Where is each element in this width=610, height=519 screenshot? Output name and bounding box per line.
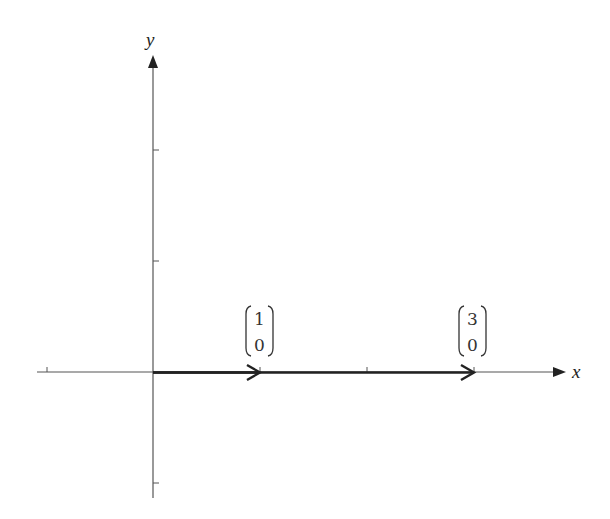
- vector-1-0-label: 1 0: [246, 306, 273, 356]
- vector-1-0-x-component: 1: [254, 309, 265, 329]
- vector-3-0-x-component: 3: [467, 309, 478, 329]
- y-ticks: [153, 150, 159, 483]
- vector-3-0-y-component: 0: [467, 335, 478, 355]
- y-axis-arrowhead-icon: [148, 55, 158, 68]
- x-axis-arrowhead-icon: [553, 367, 566, 377]
- y-axis-label: y: [144, 29, 155, 50]
- vector-diagram: x y 1 0 3 0: [0, 0, 610, 519]
- vector-3-0-label: 3 0: [459, 306, 486, 356]
- x-axis-label: x: [571, 361, 581, 382]
- vector-1-0-y-component: 0: [254, 335, 265, 355]
